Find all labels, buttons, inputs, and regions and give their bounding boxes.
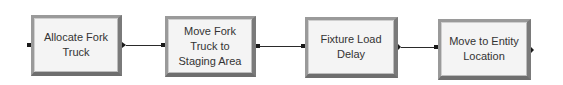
block-label: Fixture Load Delay: [316, 32, 386, 62]
block-move-fork-truck-to-staging-area[interactable]: Move Fork Truck to Staging Area: [165, 16, 256, 77]
connector-2-3[interactable]: [260, 46, 303, 47]
output-port-arrow[interactable]: [531, 47, 534, 53]
block-label: Move to Entity Location: [448, 34, 520, 64]
connector-3-4[interactable]: [401, 47, 436, 48]
connector-1-2[interactable]: [126, 45, 163, 46]
block-fixture-load-delay[interactable]: Fixture Load Delay: [305, 17, 398, 78]
block-allocate-fork-truck[interactable]: Allocate Fork Truck: [31, 15, 122, 76]
block-label: Move Fork Truck to Staging Area: [172, 24, 248, 69]
block-label: Allocate Fork Truck: [43, 30, 109, 60]
block-move-to-entity-location[interactable]: Move to Entity Location: [438, 19, 531, 80]
